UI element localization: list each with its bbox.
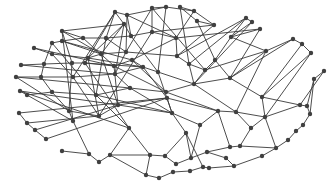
graph-node [124, 50, 128, 54]
graph-node [294, 129, 298, 133]
graph-edge [230, 78, 262, 97]
graph-node [212, 23, 216, 27]
graph-node [203, 68, 207, 72]
graph-node [33, 128, 37, 132]
graph-node [97, 114, 101, 118]
graph-node [60, 39, 64, 43]
graph-node [32, 46, 36, 50]
graph-node [198, 123, 202, 127]
graph-node [312, 77, 316, 81]
graph-edge [159, 172, 173, 178]
graph-node [18, 89, 22, 93]
graph-edge [165, 133, 186, 156]
graph-node [150, 6, 154, 10]
graph-edge [189, 64, 194, 84]
graph-node [163, 154, 167, 158]
graph-edge [132, 38, 176, 60]
graph-node [144, 173, 148, 177]
graph-edge [62, 151, 89, 154]
graph-edge [176, 38, 177, 56]
graph-node [192, 9, 196, 13]
graph-edge [158, 72, 194, 84]
graph-node [125, 13, 129, 17]
graph-node [171, 170, 175, 174]
graph-edge [132, 60, 166, 92]
graph-edge [146, 155, 150, 175]
graph-node [195, 19, 199, 23]
graph-edge [186, 133, 203, 167]
graph-node [86, 56, 90, 60]
graph-edge [110, 155, 146, 175]
graph-node [165, 96, 169, 100]
graph-node [71, 119, 75, 123]
graph-node [309, 51, 313, 55]
graph-node [104, 36, 108, 40]
graph-edge [131, 32, 152, 36]
graph-node [238, 144, 242, 148]
graph-edge [262, 97, 300, 105]
graph-edge [240, 146, 276, 148]
graph-edge [266, 39, 293, 51]
graph-edge [234, 156, 262, 166]
graph-edge [262, 44, 302, 97]
graph-node [141, 65, 145, 69]
graph-node [216, 109, 220, 113]
graph-node [87, 152, 91, 156]
graph-node [274, 146, 278, 150]
graph-node [70, 61, 74, 65]
graph-node [291, 37, 295, 41]
graph-node [60, 149, 64, 153]
graph-node [232, 164, 236, 168]
graph-node [128, 86, 132, 90]
graph-edge [180, 7, 189, 64]
graph-node [130, 58, 134, 62]
graph-node [25, 93, 29, 97]
graph-node [67, 109, 71, 113]
graph-edge [176, 29, 260, 38]
graph-edge [218, 111, 230, 147]
graph-node [156, 70, 160, 74]
graph-node [44, 137, 48, 141]
graph-edge [167, 98, 218, 111]
graph-edge [126, 15, 127, 52]
graph-node [25, 121, 29, 125]
graph-edge [115, 74, 130, 88]
graph-node [170, 111, 174, 115]
graph-edge [16, 77, 69, 111]
graph-node [234, 110, 238, 114]
graph-node [97, 160, 101, 164]
graph-edge [262, 148, 276, 156]
network-graph [0, 0, 333, 183]
graph-edge [44, 63, 72, 64]
graph-node [108, 153, 112, 157]
graph-node [305, 104, 309, 108]
graph-node [178, 5, 182, 9]
graph-node [174, 162, 178, 166]
graph-node [164, 90, 168, 94]
graph-edge [191, 152, 207, 158]
graph-node [50, 41, 54, 45]
graph-node [164, 5, 168, 9]
graph-edge [110, 128, 129, 155]
graph-edge [177, 25, 214, 56]
graph-node [263, 115, 267, 119]
graph-node [229, 35, 233, 39]
graph-edge [166, 84, 194, 92]
graph-node [188, 169, 192, 173]
graph-node [258, 27, 262, 31]
graph-node [187, 62, 191, 66]
graph-node [201, 165, 205, 169]
graph-node [213, 58, 217, 62]
graph-node [260, 95, 264, 99]
graph-node [50, 52, 54, 56]
graph-node [286, 138, 290, 142]
graph-edge [176, 158, 191, 164]
graph-node [150, 30, 154, 34]
graph-node [322, 69, 326, 73]
graph-node [249, 126, 253, 130]
graph-edge [310, 79, 314, 114]
graph-edge [240, 128, 251, 146]
graph-node [192, 82, 196, 86]
graph-node [17, 111, 21, 115]
graph-node [94, 93, 98, 97]
